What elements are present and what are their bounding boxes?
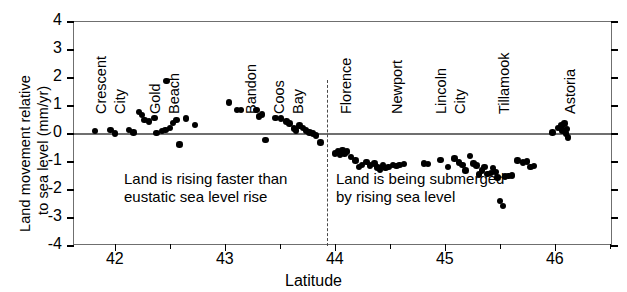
data-point	[313, 132, 319, 138]
data-point	[467, 153, 473, 159]
x-tick-label: 45	[425, 250, 465, 268]
y-tick	[67, 245, 74, 246]
city-label: Lincoln	[434, 68, 449, 114]
data-point	[192, 122, 198, 128]
y-tick-right	[611, 21, 618, 22]
y-tick-label: 0	[38, 124, 62, 140]
y-tick-right	[611, 217, 618, 218]
y-tick	[67, 161, 74, 162]
y-tick-label: 2	[38, 68, 62, 84]
y-tick-label: -3	[38, 208, 62, 224]
y-tick-right	[611, 49, 618, 50]
figure-land-movement-vs-latitude: Land movement relative to sea level (mm/…	[0, 0, 627, 292]
x-tick-label: 43	[205, 250, 245, 268]
data-point	[401, 161, 407, 167]
city-label: City	[113, 89, 128, 114]
annotation-land-submerged-line-1: Land is being submerged	[336, 170, 504, 188]
data-point	[531, 163, 537, 169]
y-tick-label: -4	[38, 236, 62, 252]
city-label: Astoria	[563, 69, 578, 114]
plot-area: CrescentCityGoldBeachBandonCoosBayFloren…	[73, 21, 612, 245]
data-point	[163, 78, 169, 84]
y-tick-label: -1	[38, 152, 62, 168]
city-label: Newport	[390, 60, 405, 114]
city-label: Bay	[291, 89, 306, 114]
data-point	[549, 129, 555, 135]
y-tick-label: -2	[38, 180, 62, 196]
city-label: Coos	[272, 80, 287, 114]
x-tick-minor	[390, 244, 391, 249]
x-tick-label: 42	[95, 250, 135, 268]
annotation-land-submerged: Land is being submerged by rising sea le…	[336, 170, 504, 207]
data-point	[226, 99, 232, 105]
data-point	[317, 139, 323, 145]
y-tick-label: 1	[38, 96, 62, 112]
y-tick-right	[611, 133, 618, 134]
x-tick-minor	[610, 244, 611, 249]
x-tick-minor	[280, 244, 281, 249]
x-tick-label: 46	[535, 250, 575, 268]
data-point	[352, 157, 358, 163]
x-tick-minor	[170, 244, 171, 249]
y-tick-right	[611, 161, 618, 162]
annotation-land-rising: Land is rising faster than eustatic sea …	[124, 170, 287, 207]
city-label: Tillamook	[497, 52, 512, 114]
y-tick	[67, 21, 74, 22]
y-tick	[67, 189, 74, 190]
y-tick-right	[611, 245, 618, 246]
y-axis-title-line-1: Land movement relative	[17, 75, 33, 232]
annotation-land-submerged-line-2: by rising sea level	[336, 188, 504, 206]
x-axis-title: Latitude	[0, 272, 627, 290]
data-point	[183, 115, 189, 121]
y-tick	[67, 217, 74, 218]
y-tick	[67, 77, 74, 78]
annotation-land-rising-line-1: Land is rising faster than	[124, 170, 287, 188]
data-point	[425, 161, 431, 167]
data-point	[176, 141, 182, 147]
city-label: Gold	[148, 83, 163, 114]
data-point	[262, 137, 268, 143]
y-tick-label: 4	[38, 12, 62, 28]
data-point	[259, 111, 265, 117]
x-tick-label: 44	[315, 250, 355, 268]
city-label: City	[453, 89, 468, 114]
annotation-land-rising-line-2: eustatic sea level rise	[124, 188, 287, 206]
y-tick	[67, 49, 74, 50]
y-tick-right	[611, 77, 618, 78]
y-tick-label: 3	[38, 40, 62, 56]
city-label: Florence	[339, 58, 354, 114]
data-point	[437, 157, 443, 163]
city-label: Crescent	[94, 56, 109, 114]
y-tick	[67, 105, 74, 106]
data-point	[565, 134, 571, 140]
data-point	[173, 117, 179, 123]
y-tick-right	[611, 189, 618, 190]
x-tick-minor	[500, 244, 501, 249]
data-point	[151, 115, 157, 121]
data-point	[112, 130, 118, 136]
transition-divider-line	[327, 80, 328, 246]
y-tick	[67, 133, 74, 134]
data-point	[509, 172, 515, 178]
data-point	[564, 126, 570, 132]
data-point	[130, 129, 136, 135]
y-tick-right	[611, 105, 618, 106]
